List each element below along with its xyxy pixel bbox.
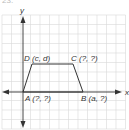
vertex-label-d: D (c, d)	[24, 54, 51, 63]
coordinate-plane: x y D (c, d) C (?, ?) A (?, ?) B (a, ?)	[0, 0, 129, 130]
x-axis-right-arrow-icon	[115, 90, 122, 95]
vertex-label-c: C (?, ?)	[71, 54, 98, 63]
vertex-label-b: B (a, ?)	[81, 94, 108, 103]
trapezoid-abcd	[23, 64, 83, 92]
vertex-label-a: A (?, ?)	[24, 94, 51, 103]
grid-lines	[2, 15, 126, 129]
y-axis-label: y	[19, 6, 25, 15]
x-axis-left-arrow-icon	[2, 90, 9, 95]
x-axis-label: x	[124, 88, 129, 97]
